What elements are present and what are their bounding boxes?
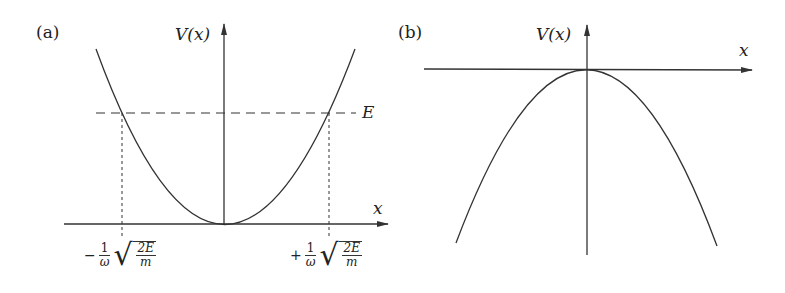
a-x-axis-label: x: [373, 198, 383, 218]
energy-label: E: [362, 102, 374, 122]
sqrt: √ 2E m: [319, 240, 362, 270]
panel-b-graphics: [424, 25, 752, 255]
left-turning-point-label: − 1 ω √ 2E m: [84, 240, 156, 270]
panel-a-label: (a): [36, 22, 59, 42]
sign: −: [84, 247, 96, 263]
b-y-axis-label: V(x): [536, 24, 571, 44]
panel-a-graphics: [64, 24, 388, 236]
a-parabola: [96, 49, 355, 225]
b-x-axis-label: x: [739, 40, 749, 60]
figure: (a) V(x) x E − 1 ω √ 2E m + 1 ω √: [0, 0, 785, 293]
sign: +: [290, 247, 302, 263]
fraction: 1 ω: [305, 242, 317, 269]
sqrt: √ 2E m: [113, 240, 156, 270]
right-turning-point-label: + 1 ω √ 2E m: [290, 240, 362, 270]
a-y-axis-label: V(x): [175, 24, 210, 44]
fraction: 1 ω: [99, 242, 111, 269]
panel-b-label: (b): [398, 22, 422, 42]
